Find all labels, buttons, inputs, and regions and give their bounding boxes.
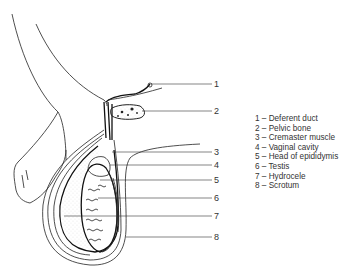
abdomen-outline xyxy=(12,14,66,160)
callout-number-4: 4 xyxy=(214,160,219,170)
legend-item: 3 – Cremaster muscle xyxy=(255,133,338,143)
legend-item: 7 – Hydrocele xyxy=(255,172,338,182)
thigh-outline xyxy=(36,24,107,106)
legend-item: 6 – Testis xyxy=(255,162,338,172)
callout-number-3: 3 xyxy=(214,147,219,157)
callout-number-2: 2 xyxy=(214,106,219,116)
legend-item: 4 – Vaginal cavity xyxy=(255,143,338,153)
callout-number-8: 8 xyxy=(214,232,219,242)
legend-item: 8 – Scrotum xyxy=(255,181,338,191)
pelvic-bone xyxy=(111,105,145,120)
callout-number-6: 6 xyxy=(214,193,219,203)
callout-number-5: 5 xyxy=(214,175,219,185)
legend-item: 1 – Deferent duct xyxy=(255,114,338,124)
penis-glans-detail xyxy=(22,170,28,188)
legend-item: 5 – Head of epididymis xyxy=(255,152,338,162)
callout-number-7: 7 xyxy=(214,211,219,221)
legend-item: 2 – Pelvic bone xyxy=(255,124,338,134)
spermatic-cord xyxy=(104,102,112,140)
legend: 1 – Deferent duct 2 – Pelvic bone 3 – Cr… xyxy=(255,114,338,191)
seminiferous-tubules xyxy=(86,185,106,241)
callout-number-1: 1 xyxy=(214,79,219,89)
